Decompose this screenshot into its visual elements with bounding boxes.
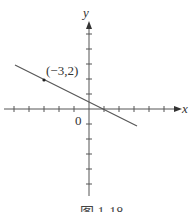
origin-label: 0 xyxy=(75,113,82,129)
x-axis-label: x xyxy=(182,101,188,117)
y-axis-label: y xyxy=(83,5,89,21)
coordinate-plane xyxy=(0,0,190,212)
figure-caption: 图 1-18 xyxy=(80,201,123,212)
x-axis-arrow-icon xyxy=(174,106,182,112)
y-axis-arrow-icon xyxy=(86,21,92,29)
point-label: (−3,2) xyxy=(46,63,78,79)
